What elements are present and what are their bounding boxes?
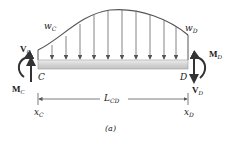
figure-caption: (a)	[105, 124, 116, 133]
load-label-right: wD	[185, 24, 198, 35]
moment-label-right: MD	[209, 50, 222, 62]
beam-segment	[38, 60, 188, 69]
shear-label-right: VD	[192, 86, 203, 98]
diagram-graphics	[0, 0, 231, 142]
position-label-left: xC	[34, 108, 44, 119]
load-label-left: wC	[44, 22, 56, 33]
moment-label-left: MC	[12, 85, 25, 97]
shear-label-left: VC	[20, 45, 31, 57]
length-label: LCD	[104, 94, 119, 105]
position-label-right: xD	[184, 108, 194, 119]
beam-segment-diagram: wC wD VC MC MD VD C D LCD xC xD (a)	[0, 0, 231, 142]
load-curve	[38, 10, 188, 50]
point-label-c: C	[38, 73, 45, 82]
point-label-d: D	[180, 73, 187, 82]
